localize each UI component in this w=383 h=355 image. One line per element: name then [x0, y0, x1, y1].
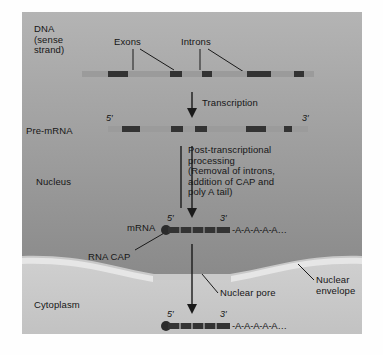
poly-a-tail-cytoplasm: -A-A-A-A-A… — [232, 320, 287, 331]
mrna-cytoplasm-graphic — [22, 12, 362, 334]
cyto-mrna-body — [168, 323, 230, 329]
figure-canvas: DNA (sense strand) Exons Introns Transcr… — [22, 12, 362, 334]
